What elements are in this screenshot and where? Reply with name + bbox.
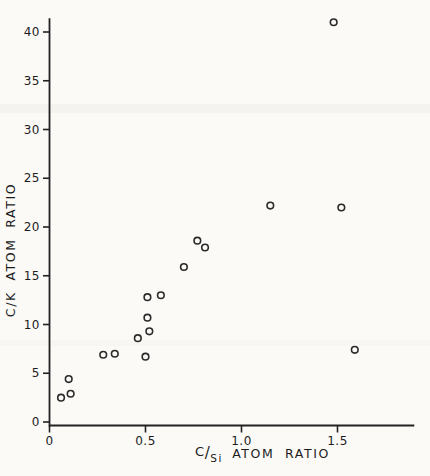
data-point [58, 394, 65, 401]
y-tick-label: 5 [32, 366, 40, 380]
x-tick-label: 0 [45, 434, 53, 448]
y-tick-label: 10 [24, 318, 40, 332]
data-point [100, 351, 107, 358]
x-axis-label: C/SiATOM RATIO [195, 444, 330, 464]
data-point [144, 314, 151, 321]
data-point [330, 19, 337, 26]
scatter-plot: 051015202530354000.51.01.5C/K ATOM RATIO… [0, 0, 430, 476]
x-tick-label: 0.5 [135, 434, 156, 448]
data-point [135, 335, 142, 342]
data-point [267, 202, 274, 209]
y-tick-label: 15 [24, 269, 40, 283]
y-axis-label: C/K ATOM RATIO [3, 183, 18, 317]
data-point [146, 328, 153, 335]
y-tick-label: 20 [24, 220, 40, 234]
y-tick-label: 30 [24, 123, 40, 137]
data-point [181, 264, 188, 271]
data-point [158, 292, 165, 299]
y-tick-label: 40 [24, 25, 40, 39]
x-tick-label: 1.5 [327, 434, 348, 448]
y-tick-label: 25 [24, 171, 40, 185]
data-point [351, 347, 358, 354]
data-point [202, 244, 209, 251]
axes [50, 18, 415, 425]
y-tick-label: 0 [32, 415, 40, 429]
data-point [144, 294, 151, 301]
data-point [111, 350, 118, 357]
data-point [142, 353, 149, 360]
data-point [338, 204, 345, 211]
y-tick-label: 35 [24, 74, 40, 88]
data-point [65, 376, 72, 383]
data-point [194, 237, 201, 244]
scatter-figure: 051015202530354000.51.01.5C/K ATOM RATIO… [0, 0, 430, 476]
data-point [67, 390, 74, 397]
